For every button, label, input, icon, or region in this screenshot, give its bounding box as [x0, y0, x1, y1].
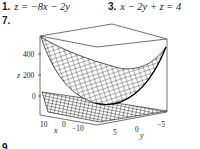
y-tick-neg5: −5 — [157, 120, 165, 129]
y-axis: 5 0 −5 y — [113, 120, 165, 140]
z-axis-label: z — [16, 71, 21, 80]
z-tick-400: 400 — [23, 50, 35, 59]
exercise-equation: z = −8x − 2y — [14, 1, 70, 12]
x-axis-label: x — [53, 126, 58, 135]
z-axis: 400 200 0 z — [16, 50, 41, 101]
x-axis: 10 0 −10 x — [40, 120, 84, 135]
exercise-1: 1.z = −8x − 2y — [2, 1, 70, 12]
exercise-number: 1. — [2, 1, 10, 12]
exercise-9-number: 9. — [2, 142, 10, 149]
x-tick-neg10: −10 — [72, 124, 84, 133]
exercise-number: 3. — [108, 1, 116, 12]
exercise-equation: x − 2y + z = 4 — [120, 1, 181, 12]
x-tick-0: 0 — [62, 120, 66, 129]
y-tick-5: 5 — [113, 128, 117, 137]
y-axis-label: y — [139, 131, 144, 140]
z-tick-0: 0 — [32, 92, 36, 101]
surface-plot: 400 200 0 z 10 0 −10 x 5 0 −5 y — [0, 18, 200, 140]
exercise-answers-row: 1.z = −8x − 2y 3.x − 2y + z = 4 — [2, 1, 200, 13]
y-tick-0: 0 — [135, 125, 139, 134]
z-tick-200: 200 — [23, 71, 35, 80]
x-tick-10: 10 — [40, 120, 48, 129]
exercise-3: 3.x − 2y + z = 4 — [108, 1, 181, 12]
